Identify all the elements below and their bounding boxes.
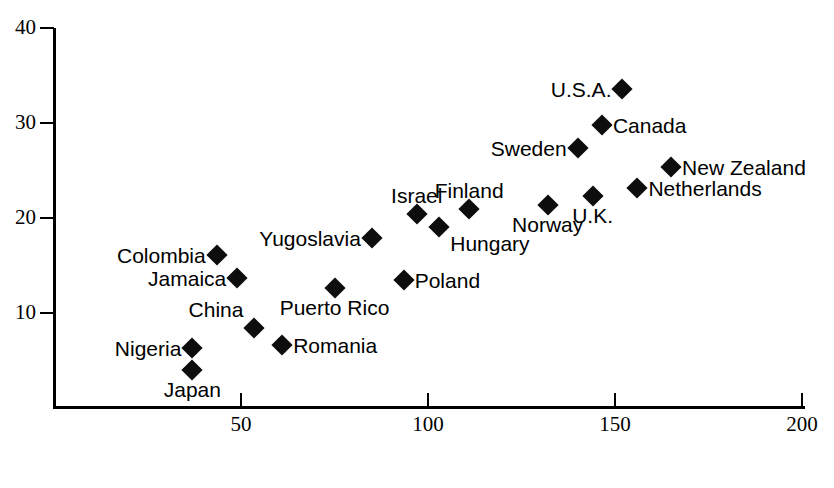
point-label-romania: Romania <box>293 335 377 356</box>
scatter-chart: 40302010 50100150200 JapanNigeriaColombi… <box>0 0 834 488</box>
data-point-romania <box>272 335 293 356</box>
data-point-u-s-a <box>612 78 633 99</box>
data-point-poland <box>393 269 414 290</box>
point-label-netherlands: Netherlands <box>648 177 761 198</box>
data-point-colombia <box>206 244 227 265</box>
data-point-finland <box>459 199 480 220</box>
data-point-canada <box>591 114 612 135</box>
point-label-china: China <box>189 299 244 320</box>
point-label-jamaica: Jamaica <box>148 267 226 288</box>
point-label-u-s-a: U.S.A. <box>551 78 612 99</box>
data-point-china <box>244 318 265 339</box>
point-label-sweden: Sweden <box>491 137 567 158</box>
plot-area: JapanNigeriaColombiaJamaicaChinaRomaniaP… <box>0 0 834 488</box>
data-point-hungary <box>429 216 450 237</box>
point-label-yugoslavia: Yugoslavia <box>259 227 361 248</box>
point-label-finland: Finland <box>435 180 504 201</box>
data-point-israel <box>406 204 427 225</box>
point-label-canada: Canada <box>613 114 687 135</box>
point-label-nigeria: Nigeria <box>115 338 182 359</box>
data-point-yugoslavia <box>361 227 382 248</box>
data-point-sweden <box>567 137 588 158</box>
data-point-jamaica <box>227 267 248 288</box>
point-label-u-k: U.K. <box>572 205 613 226</box>
data-point-netherlands <box>627 177 648 198</box>
data-point-nigeria <box>182 338 203 359</box>
point-label-puerto-rico: Puerto Rico <box>280 297 390 318</box>
point-label-colombia: Colombia <box>117 245 206 266</box>
point-label-hungary: Hungary <box>450 232 529 253</box>
point-label-poland: Poland <box>415 269 480 290</box>
point-label-new-zealand: New Zealand <box>682 156 806 177</box>
point-label-japan: Japan <box>164 379 221 400</box>
data-point-new-zealand <box>660 156 681 177</box>
